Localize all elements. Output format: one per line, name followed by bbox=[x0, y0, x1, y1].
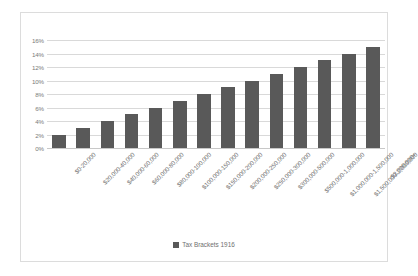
y-axis-tick-label: 4% bbox=[35, 118, 44, 125]
bar-slot bbox=[216, 40, 240, 148]
y-axis-tick-label: 16% bbox=[32, 37, 44, 44]
bar[interactable] bbox=[342, 54, 356, 149]
bar-slot bbox=[47, 40, 71, 148]
x-axis-tick-labels: $0-20,000$20,000-40,000$40,000-60,000$60… bbox=[47, 149, 385, 241]
bar-slot bbox=[168, 40, 192, 148]
x-axis-tick-label: $0-20,000 bbox=[73, 151, 97, 175]
bar-slot bbox=[240, 40, 264, 148]
chart-container: 16%14%12%10%8%6%4%2%0% $0-20,000$20,000-… bbox=[20, 12, 388, 262]
bar[interactable] bbox=[149, 108, 163, 149]
bar-slot bbox=[95, 40, 119, 148]
bar-slot bbox=[337, 40, 361, 148]
bar-slot bbox=[264, 40, 288, 148]
bar[interactable] bbox=[221, 87, 235, 148]
y-axis-tick-label: 10% bbox=[32, 77, 44, 84]
bar-slot bbox=[119, 40, 143, 148]
y-axis-tick-label: 2% bbox=[35, 131, 44, 138]
bar-slot bbox=[313, 40, 337, 148]
bar[interactable] bbox=[52, 135, 66, 149]
bar[interactable] bbox=[245, 81, 259, 149]
chart-legend: Tax Brackets 1916 bbox=[21, 241, 387, 248]
bar-slot bbox=[144, 40, 168, 148]
bar-slot bbox=[361, 40, 385, 148]
bar[interactable] bbox=[76, 128, 90, 148]
bar[interactable] bbox=[101, 121, 115, 148]
y-axis-tick-label: 0% bbox=[35, 145, 44, 152]
bar[interactable] bbox=[318, 60, 332, 148]
bar[interactable] bbox=[366, 47, 380, 148]
legend-color-swatch bbox=[173, 242, 179, 248]
y-axis-tick-label: 8% bbox=[35, 91, 44, 98]
bar[interactable] bbox=[125, 114, 139, 148]
bar-slot bbox=[288, 40, 312, 148]
bar[interactable] bbox=[294, 67, 308, 148]
y-axis-tick-label: 6% bbox=[35, 104, 44, 111]
bar[interactable] bbox=[270, 74, 284, 148]
bar[interactable] bbox=[173, 101, 187, 148]
y-axis-tick-label: 12% bbox=[32, 64, 44, 71]
bar[interactable] bbox=[197, 94, 211, 148]
legend-label: Tax Brackets 1916 bbox=[182, 241, 235, 248]
bar-slot bbox=[192, 40, 216, 148]
bar-slot bbox=[71, 40, 95, 148]
bar-series bbox=[47, 40, 385, 148]
plot-area: 16%14%12%10%8%6%4%2%0% bbox=[47, 40, 385, 148]
y-axis-tick-label: 14% bbox=[32, 50, 44, 57]
